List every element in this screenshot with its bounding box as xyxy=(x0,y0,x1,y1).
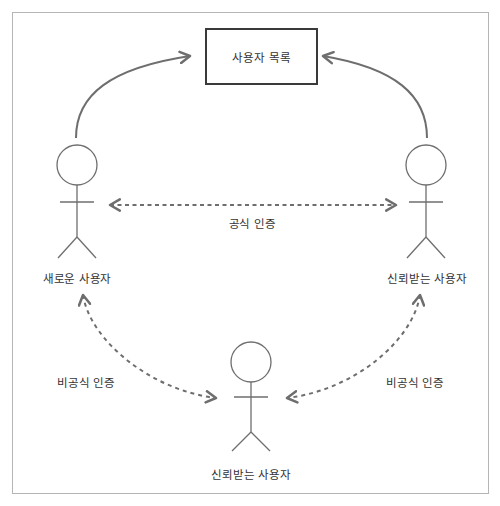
edge-new-user-to-list xyxy=(76,56,190,138)
edge-trusted-to-list xyxy=(323,56,427,138)
actor-new-user-icon xyxy=(57,145,97,258)
user-list-box: 사용자 목록 xyxy=(205,28,318,85)
actor-trusted-user-bottom-icon xyxy=(231,342,271,451)
formal-auth-label: 공식 인증 xyxy=(229,215,276,231)
trusted-user-bottom-label: 신뢰받는 사용자 xyxy=(211,466,290,482)
informal-auth-right-label: 비공식 인증 xyxy=(386,374,443,390)
actor-trusted-user-right-icon xyxy=(406,145,446,258)
new-user-label: 새로운 사용자 xyxy=(43,270,111,286)
user-list-label: 사용자 목록 xyxy=(232,49,291,65)
trusted-user-right-label: 신뢰받는 사용자 xyxy=(387,270,466,286)
informal-auth-left-label: 비공식 인증 xyxy=(57,374,114,390)
